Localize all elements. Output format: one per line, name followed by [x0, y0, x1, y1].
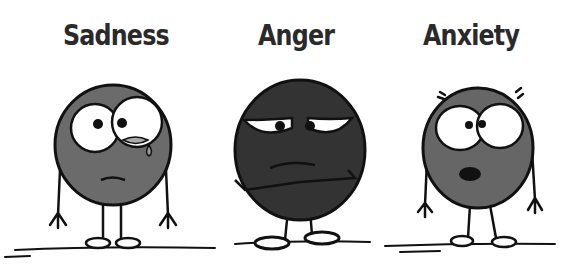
anxiety-mouth: [459, 167, 481, 181]
illustration: [0, 0, 584, 267]
anger-face: [235, 80, 365, 220]
anxiety-character: [418, 88, 542, 247]
sadness-character: [50, 85, 176, 248]
tear-icon: [147, 145, 152, 156]
anxiety-face: [423, 88, 533, 208]
anger-character: [235, 80, 365, 249]
